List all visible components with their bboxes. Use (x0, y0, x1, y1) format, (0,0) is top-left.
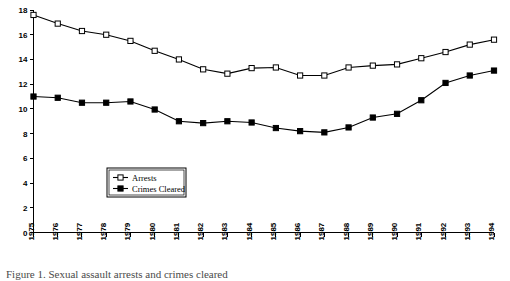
data-point-marker (55, 95, 60, 100)
x-tick-label: 1983 (220, 222, 229, 240)
data-point-marker (152, 107, 157, 112)
data-point-marker (346, 65, 351, 70)
data-point-marker (31, 12, 36, 17)
legend-marker (118, 175, 123, 180)
legend-marker (118, 186, 123, 191)
data-point-marker (249, 120, 254, 125)
series-crimes-cleared (31, 68, 497, 135)
x-tick-label: 1990 (390, 222, 399, 240)
x-tick-label: 1985 (269, 222, 278, 240)
data-point-marker (346, 125, 351, 130)
data-point-marker (79, 28, 84, 33)
data-point-marker (128, 38, 133, 43)
data-point-marker (322, 130, 327, 135)
axes (34, 10, 495, 233)
x-tick-label: 1993 (463, 222, 472, 240)
figure-caption-strip: Figure 1. Sexual assault arrests and cri… (0, 268, 510, 281)
x-axis-ticks: 1975197619771978197919801981198219831984… (27, 222, 497, 240)
y-tick-label: 8 (23, 130, 28, 139)
data-point-marker (370, 63, 375, 68)
data-point-marker (394, 62, 399, 67)
y-tick-label: 12 (19, 80, 28, 89)
data-point-marker (152, 48, 157, 53)
data-point-marker (322, 73, 327, 78)
data-point-marker (31, 94, 36, 99)
x-tick-label: 1987 (317, 222, 326, 240)
x-tick-label: 1982 (196, 222, 205, 240)
data-point-marker (298, 73, 303, 78)
data-point-marker (467, 73, 472, 78)
data-point-marker (419, 98, 424, 103)
chart-area: 024681012141618 197519761977197819791980… (0, 0, 510, 281)
x-tick-label: 1977 (75, 222, 84, 240)
x-tick-label: 1984 (245, 222, 254, 240)
y-tick-label: 2 (23, 204, 28, 213)
data-point-marker (176, 119, 181, 124)
data-point-marker (176, 57, 181, 62)
data-series-group (31, 12, 497, 135)
data-point-marker (225, 71, 230, 76)
data-point-marker (298, 129, 303, 134)
legend-label: Crimes Cleared (132, 184, 186, 194)
y-tick-label: 18 (19, 6, 28, 15)
series-line (34, 15, 495, 76)
data-point-marker (104, 100, 109, 105)
y-tick-label: 6 (23, 154, 28, 163)
series-line (34, 71, 495, 133)
figure-root: 024681012141618 197519761977197819791980… (0, 0, 510, 281)
data-point-marker (273, 65, 278, 70)
x-tick-label: 1991 (414, 222, 423, 240)
data-point-marker (370, 115, 375, 120)
x-tick-label: 1992 (439, 222, 448, 240)
x-tick-label: 1986 (293, 222, 302, 240)
x-tick-label: 1980 (148, 222, 157, 240)
chart-legend: ArrestsCrimes Cleared (107, 168, 186, 197)
data-point-marker (104, 32, 109, 37)
y-axis-ticks: 024681012141618 (19, 6, 34, 238)
data-point-marker (394, 111, 399, 116)
data-point-marker (419, 56, 424, 61)
y-tick-label: 14 (19, 55, 28, 64)
data-point-marker (491, 68, 496, 73)
series-arrests (31, 12, 497, 78)
data-point-marker (225, 119, 230, 124)
data-point-marker (201, 121, 206, 126)
y-tick-label: 4 (23, 179, 28, 188)
x-tick-label: 1979 (123, 222, 132, 240)
y-tick-label: 16 (19, 31, 28, 40)
data-point-marker (467, 42, 472, 47)
data-point-marker (79, 100, 84, 105)
x-tick-label: 1989 (366, 222, 375, 240)
y-tick-label: 10 (19, 105, 28, 114)
x-tick-label: 1994 (487, 222, 496, 240)
data-point-marker (249, 66, 254, 71)
legend-label: Arrests (132, 173, 157, 183)
x-tick-label: 1976 (51, 222, 60, 240)
line-chart: 024681012141618 197519761977197819791980… (0, 0, 510, 281)
x-tick-label: 1988 (342, 222, 351, 240)
x-tick-label: 1978 (99, 222, 108, 240)
data-point-marker (443, 80, 448, 85)
x-tick-label: 1981 (172, 222, 181, 240)
data-point-marker (55, 21, 60, 26)
data-point-marker (443, 49, 448, 54)
data-point-marker (273, 125, 278, 130)
data-point-marker (128, 99, 133, 104)
data-point-marker (491, 37, 496, 42)
x-tick-label: 1975 (27, 222, 36, 240)
data-point-marker (201, 67, 206, 72)
figure-caption: Figure 1. Sexual assault arrests and cri… (6, 268, 510, 281)
